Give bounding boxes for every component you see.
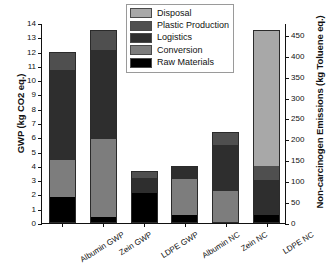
bar-segment-logistics bbox=[131, 178, 158, 192]
y-axis-left-tick bbox=[38, 67, 42, 68]
y-axis-left-tick-label: 10 bbox=[27, 77, 36, 85]
y-axis-right-tick bbox=[285, 119, 289, 120]
legend-item-disposal[interactable]: Disposal bbox=[130, 7, 229, 19]
bar-segment-raw-materials bbox=[171, 215, 198, 223]
chart-legend: DisposalPlastic ProductionLogisticsConve… bbox=[126, 4, 234, 73]
bar-segment-logistics bbox=[212, 145, 239, 191]
y-axis-left-tick bbox=[38, 153, 42, 154]
y-axis-left-tick-label: 5 bbox=[32, 149, 36, 157]
y-axis-left-tick-label: 3 bbox=[32, 177, 36, 185]
legend-item-label: Conversion bbox=[157, 46, 203, 55]
y-axis-left-title: GWP (kg CO2 eq.) bbox=[15, 39, 26, 189]
y-axis-left-tick-label: 0 bbox=[32, 220, 36, 228]
y-axis-left-tick bbox=[38, 210, 42, 211]
legend-item-raw-materials[interactable]: Raw Materials bbox=[130, 57, 229, 69]
y-axis-left-tick bbox=[38, 167, 42, 168]
legend-item-label: Logistics bbox=[157, 33, 192, 42]
y-axis-right-tick bbox=[285, 57, 289, 58]
x-axis-tick bbox=[103, 223, 104, 227]
legend-swatch-icon bbox=[130, 33, 152, 43]
bar-segment-logistics bbox=[49, 70, 76, 160]
y-axis-left-tick bbox=[38, 181, 42, 182]
bar-segment-plastic-production bbox=[212, 132, 239, 145]
y-axis-right-tick bbox=[285, 140, 289, 141]
y-axis-left-tick-label: 9 bbox=[32, 91, 36, 99]
bar-segment-raw-materials bbox=[253, 215, 280, 223]
y-axis-left-tick bbox=[38, 124, 42, 125]
y-axis-left-tick bbox=[38, 38, 42, 39]
y-axis-right-title: Non-carcinogen Emissions (kg Toluene eq.… bbox=[314, 19, 325, 209]
y-axis-left-tick bbox=[38, 53, 42, 54]
bar-segment-plastic-production bbox=[253, 166, 280, 180]
y-axis-right-tick-label: 150 bbox=[291, 157, 304, 165]
x-axis-tick bbox=[267, 223, 268, 227]
y-axis-right-tick-label: 200 bbox=[291, 136, 304, 144]
y-axis-left-tick bbox=[38, 138, 42, 139]
bar-zein-nc[interactable] bbox=[212, 132, 239, 223]
bar-segment-conversion bbox=[90, 139, 117, 217]
y-axis-left-tick bbox=[38, 81, 42, 82]
bar-segment-plastic-production bbox=[131, 171, 158, 178]
bar-segment-disposal bbox=[253, 30, 280, 166]
y-axis-right-tick-label: 300 bbox=[291, 95, 304, 103]
y-axis-right-tick-label: 250 bbox=[291, 115, 304, 123]
legend-item-label: Raw Materials bbox=[157, 58, 214, 67]
y-axis-right-tick bbox=[285, 99, 289, 100]
y-axis-right-tick-label: 100 bbox=[291, 178, 304, 186]
legend-item-plastic-production[interactable]: Plastic Production bbox=[130, 19, 229, 31]
bar-segment-logistics bbox=[90, 50, 117, 139]
bar-segment-logistics bbox=[253, 180, 280, 215]
legend-swatch-icon bbox=[130, 21, 152, 31]
legend-item-label: Plastic Production bbox=[157, 21, 229, 30]
bar-segment-plastic-production bbox=[49, 52, 76, 71]
legend-item-conversion[interactable]: Conversion bbox=[130, 44, 229, 56]
bar-segment-raw-materials bbox=[49, 197, 76, 223]
y-axis-right-tick bbox=[285, 224, 289, 225]
bar-ldpe-gwp[interactable] bbox=[131, 171, 158, 223]
y-axis-right-tick-label: 350 bbox=[291, 74, 304, 82]
y-axis-left-tick-label: 2 bbox=[32, 191, 36, 199]
y-axis-right-tick bbox=[285, 203, 289, 204]
bar-zein-gwp[interactable] bbox=[90, 30, 117, 223]
legend-swatch-icon bbox=[130, 58, 152, 68]
y-axis-left-tick bbox=[38, 195, 42, 196]
y-axis-left-tick-label: 11 bbox=[28, 63, 36, 71]
y-axis-left-tick bbox=[38, 224, 42, 225]
bar-albumin-nc[interactable] bbox=[171, 166, 198, 223]
bar-segment-logistics bbox=[171, 166, 198, 179]
y-axis-right-tick-label: 450 bbox=[291, 32, 304, 40]
y-axis-right-tick bbox=[285, 36, 289, 37]
y-axis-left-tick-label: 12 bbox=[27, 49, 36, 57]
legend-item-logistics[interactable]: Logistics bbox=[130, 32, 229, 44]
x-axis-label-ldpe-nc: LDPE NC bbox=[281, 230, 315, 256]
bar-segment-conversion bbox=[171, 179, 198, 215]
x-axis-label-zein-nc: Zein NC bbox=[239, 230, 269, 253]
x-axis-label-ldpe-gwp: LDPE GWP bbox=[159, 230, 200, 260]
bar-segment-conversion bbox=[212, 191, 239, 222]
y-axis-left-tick-label: 6 bbox=[32, 134, 36, 142]
x-axis-tick bbox=[185, 223, 186, 227]
legend-swatch-icon bbox=[130, 45, 152, 55]
bar-ldpe-nc[interactable] bbox=[253, 30, 280, 223]
bar-albumin-gwp[interactable] bbox=[49, 52, 76, 223]
y-axis-right-tick bbox=[285, 161, 289, 162]
y-axis-right-tick-label: 0 bbox=[291, 220, 295, 228]
y-axis-right-tick-label: 50 bbox=[291, 199, 300, 207]
y-axis-right-tick bbox=[285, 182, 289, 183]
y-axis-left-tick-label: 13 bbox=[27, 34, 36, 42]
y-axis-left-tick-label: 7 bbox=[32, 120, 36, 128]
y-axis-left-tick-label: 1 bbox=[32, 206, 36, 214]
x-axis-label-albumin-nc: Albumin NC bbox=[200, 230, 241, 260]
y-axis-left-tick bbox=[38, 110, 42, 111]
y-axis-right-tick-label: 400 bbox=[291, 53, 304, 61]
y-axis-left-tick-label: 8 bbox=[32, 106, 36, 114]
legend-swatch-icon bbox=[130, 8, 152, 18]
y-axis-left-tick-label: 4 bbox=[32, 163, 36, 171]
x-axis-tick bbox=[144, 223, 145, 227]
bar-segment-raw-materials bbox=[131, 193, 158, 223]
y-axis-right-tick bbox=[285, 78, 289, 79]
legend-item-label: Disposal bbox=[157, 9, 192, 18]
chart-figure: GWP (kg CO2 eq.) Non-carcinogen Emission… bbox=[0, 0, 327, 274]
bar-segment-plastic-production bbox=[90, 30, 117, 50]
y-axis-left-tick bbox=[38, 24, 42, 25]
